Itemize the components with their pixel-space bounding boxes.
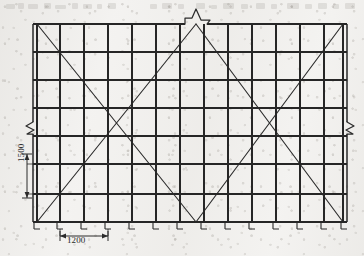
base-plates-group	[34, 223, 347, 229]
standards-group	[37, 24, 343, 222]
top-center-break-icon	[185, 9, 210, 24]
base-plate-12	[297, 223, 303, 229]
base-plate-5	[129, 223, 135, 229]
base-plate-1	[34, 223, 40, 229]
base-plate-10	[249, 223, 255, 229]
base-plate-11	[273, 223, 279, 229]
base-plate-8	[201, 223, 207, 229]
hdim-arrow-right	[102, 234, 108, 239]
vertical-dimension-label: 1500	[17, 144, 26, 162]
base-plate-9	[225, 223, 231, 229]
base-plate-4	[105, 223, 111, 229]
base-plate-2	[57, 223, 63, 229]
scaffold-svg	[0, 0, 364, 256]
base-plate-3	[81, 223, 87, 229]
base-plate-14	[341, 223, 347, 229]
left-break-icon	[26, 122, 34, 134]
vdim-arrow-bottom	[25, 192, 30, 198]
drawing-page: 1500 1200	[0, 0, 364, 256]
base-plate-6	[153, 223, 159, 229]
base-plate-7	[177, 223, 183, 229]
base-plate-13	[321, 223, 327, 229]
scaffold-elevation-drawing	[0, 0, 364, 256]
right-break-icon	[346, 122, 354, 134]
bracing-group	[37, 24, 343, 222]
horizontal-dimension-label: 1200	[67, 236, 85, 245]
hdim-arrow-left	[60, 234, 66, 239]
